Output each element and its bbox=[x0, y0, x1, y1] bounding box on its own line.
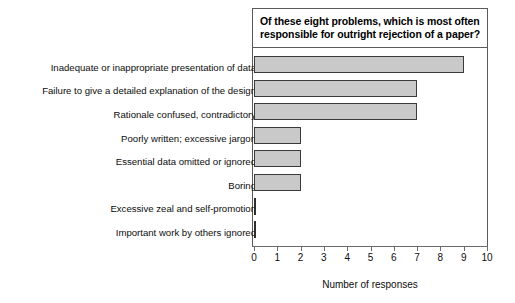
table-row: Boring bbox=[0, 173, 515, 197]
table-row: Rationale confused, contradictory bbox=[0, 102, 515, 126]
table-row: Failure to give a detailed explanation o… bbox=[0, 79, 515, 103]
bar-track bbox=[254, 198, 256, 215]
tick-mark-4 bbox=[347, 246, 348, 251]
bar-track bbox=[254, 150, 301, 167]
bar-track bbox=[254, 80, 417, 97]
tick-mark-2 bbox=[301, 246, 302, 251]
bar-4 bbox=[254, 150, 301, 167]
category-label: Boring bbox=[228, 179, 256, 190]
category-label: Essential data omitted or ignored bbox=[116, 156, 256, 167]
bar-2 bbox=[254, 103, 417, 120]
tick-mark-1 bbox=[277, 246, 278, 251]
tick-mark-7 bbox=[417, 246, 418, 251]
bar-3 bbox=[254, 127, 301, 144]
table-row: Inadequate or inappropriate presentation… bbox=[0, 55, 515, 79]
tick-mark-3 bbox=[324, 246, 325, 251]
tick-label-5: 5 bbox=[368, 252, 374, 264]
category-label: Poorly written; excessive jargon bbox=[121, 132, 256, 143]
bar-track bbox=[254, 127, 301, 144]
category-label: Failure to give a detailed explanation o… bbox=[42, 85, 256, 96]
tick-label-10: 10 bbox=[481, 252, 492, 264]
bar-6 bbox=[254, 198, 256, 215]
tick-mark-9 bbox=[464, 246, 465, 251]
tick-label-6: 6 bbox=[391, 252, 397, 264]
tick-label-3: 3 bbox=[321, 252, 327, 264]
table-row: Important work by others ignored bbox=[0, 220, 515, 244]
x-axis-title: Number of responses bbox=[252, 279, 488, 290]
bar-rows: Inadequate or inappropriate presentation… bbox=[0, 55, 515, 245]
tick-label-7: 7 bbox=[414, 252, 420, 264]
bar-0 bbox=[254, 56, 464, 73]
bar-track bbox=[254, 221, 256, 238]
bar-track bbox=[254, 103, 417, 120]
category-label: Rationale confused, contradictory bbox=[114, 108, 256, 119]
x-axis-ticks: 0 1 2 3 4 5 6 7 8 9 10 bbox=[0, 246, 515, 266]
chart-title: Of these eight problems, which is most o… bbox=[260, 15, 480, 41]
bar-7 bbox=[254, 221, 256, 238]
table-row: Poorly written; excessive jargon bbox=[0, 126, 515, 150]
chart-title-line-2: responsible for outright rejection of a … bbox=[260, 28, 480, 40]
tick-mark-0 bbox=[254, 246, 255, 251]
category-label: Inadequate or inappropriate presentation… bbox=[51, 61, 256, 72]
bar-track bbox=[254, 56, 464, 73]
category-label: Important work by others ignored bbox=[116, 226, 256, 237]
tick-label-1: 1 bbox=[275, 252, 281, 264]
chart-title-box: Of these eight problems, which is most o… bbox=[252, 8, 488, 48]
bar-chart: Of these eight problems, which is most o… bbox=[0, 0, 515, 303]
table-row: Excessive zeal and self-promotion bbox=[0, 197, 515, 221]
category-label: Excessive zeal and self-promotion bbox=[110, 203, 256, 214]
bar-1 bbox=[254, 80, 417, 97]
tick-label-9: 9 bbox=[461, 252, 467, 264]
bar-track bbox=[254, 174, 301, 191]
bar-5 bbox=[254, 174, 301, 191]
tick-label-4: 4 bbox=[344, 252, 350, 264]
chart-title-line-1: Of these eight problems, which is most o… bbox=[260, 15, 480, 27]
tick-label-2: 2 bbox=[298, 252, 304, 264]
tick-label-8: 8 bbox=[438, 252, 444, 264]
tick-mark-8 bbox=[440, 246, 441, 251]
tick-mark-5 bbox=[371, 246, 372, 251]
tick-mark-6 bbox=[394, 246, 395, 251]
tick-mark-10 bbox=[487, 246, 488, 251]
tick-label-0: 0 bbox=[251, 252, 257, 264]
table-row: Essential data omitted or ignored bbox=[0, 149, 515, 173]
